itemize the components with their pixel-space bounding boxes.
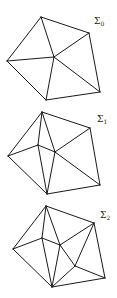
mesh-edges <box>7 17 100 100</box>
figure-sigma0: Σ0 <box>7 16 104 100</box>
mesh-edge <box>42 112 55 152</box>
mesh-edge <box>7 57 54 61</box>
mesh-edge <box>13 249 52 287</box>
mesh-edge <box>41 17 89 33</box>
mesh-edge <box>7 17 41 61</box>
mesh-edge <box>38 145 55 152</box>
mesh-edge <box>46 206 94 223</box>
mesh-edge <box>89 33 100 92</box>
mesh-edge <box>7 61 46 100</box>
mesh-edge <box>54 33 89 57</box>
figure-label: Σ0 <box>94 16 104 27</box>
mesh-edge <box>46 206 60 245</box>
mesh-edge <box>41 17 54 57</box>
mesh-edge <box>42 238 52 287</box>
triangulation-diagram: Σ0 Σ1 Σ2 <box>0 0 117 298</box>
mesh-edges <box>13 206 105 287</box>
mesh-edge <box>46 57 54 100</box>
mesh-edge <box>90 128 100 185</box>
mesh-edge <box>55 152 100 185</box>
figure-label: Σ1 <box>97 114 107 125</box>
mesh-edges <box>8 112 100 194</box>
mesh-edge <box>94 223 105 278</box>
figure-sigma1: Σ1 <box>8 112 107 194</box>
mesh-edge <box>75 266 105 278</box>
mesh-edge <box>42 112 90 128</box>
figure-label: Σ2 <box>100 210 110 221</box>
mesh-edge <box>60 245 75 266</box>
mesh-edge <box>55 128 90 152</box>
mesh-edge <box>42 238 60 245</box>
mesh-edge <box>54 57 100 92</box>
mesh-edge <box>46 92 100 100</box>
figure-sigma2: Σ2 <box>13 206 110 287</box>
mesh-edge <box>47 185 100 194</box>
mesh-edge <box>47 152 55 194</box>
